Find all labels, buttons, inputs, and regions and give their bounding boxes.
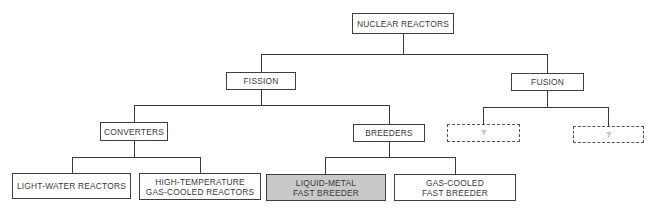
connector-to-converters <box>134 105 135 122</box>
connector-to-light-water <box>72 157 73 173</box>
connector-level1-bar <box>261 54 548 55</box>
node-fusion-unknown-2: ? <box>573 126 644 143</box>
connector-converters-bar <box>72 157 201 158</box>
connector-breeders-down <box>389 141 390 157</box>
connector-root-down <box>403 33 404 54</box>
node-label: LIQUID-METAL FAST BREEDER <box>293 178 359 198</box>
node-high-temperature-gas-cooled-reactors: HIGH-TEMPERATURE GAS-COOLED REACTORS <box>139 173 261 200</box>
connector-to-unknown-2 <box>608 107 609 126</box>
connector-to-gcfbr <box>455 157 456 174</box>
connector-to-unknown-1 <box>483 107 484 124</box>
node-label: HIGH-TEMPERATURE GAS-COOLED REACTORS <box>146 177 254 197</box>
node-fission: FISSION <box>226 72 296 90</box>
node-fusion: FUSION <box>511 73 584 91</box>
node-label: FUSION <box>531 77 564 87</box>
connector-fusion-bar <box>483 107 609 108</box>
node-label: ? <box>481 128 486 138</box>
node-gas-cooled-fast-breeder: GAS-COOLED FAST BREEDER <box>394 174 516 201</box>
connector-breeders-bar <box>325 157 456 158</box>
connector-fusion-down <box>547 90 548 107</box>
node-nuclear-reactors: NUCLEAR REACTORS <box>352 13 454 34</box>
connector-converters-down <box>134 140 135 157</box>
connector-to-fission <box>261 54 262 72</box>
node-liquid-metal-fast-breeder: LIQUID-METAL FAST BREEDER <box>266 174 386 201</box>
node-label: FISSION <box>244 76 279 86</box>
node-label: LIGHT-WATER REACTORS <box>17 181 126 191</box>
node-label: NUCLEAR REACTORS <box>357 19 449 29</box>
node-label: GAS-COOLED FAST BREEDER <box>422 178 488 198</box>
connector-to-htgcr <box>200 157 201 173</box>
connector-fission-bar <box>134 105 390 106</box>
node-converters: CONVERTERS <box>100 122 168 141</box>
node-label: CONVERTERS <box>104 127 164 137</box>
connector-to-lmfbr <box>325 157 326 174</box>
node-label: BREEDERS <box>365 128 413 138</box>
connector-to-breeders <box>389 105 390 124</box>
connector-fission-down <box>261 89 262 105</box>
nuclear-reactors-tree-diagram: NUCLEAR REACTORS FISSION FUSION CONVERTE… <box>0 0 655 210</box>
node-light-water-reactors: LIGHT-WATER REACTORS <box>12 173 131 199</box>
node-fusion-unknown-1: ? <box>447 124 520 142</box>
node-breeders: BREEDERS <box>353 124 425 142</box>
connector-to-fusion <box>547 54 548 73</box>
node-label: ? <box>606 130 611 140</box>
